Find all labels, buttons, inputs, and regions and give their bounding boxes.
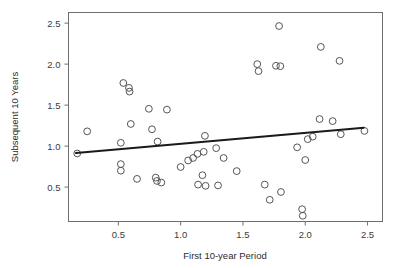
- data-point: [261, 181, 268, 188]
- x-tick-label: 1.5: [236, 229, 249, 240]
- y-axis-ticks: [65, 23, 69, 187]
- data-point: [158, 179, 165, 186]
- data-point: [302, 157, 309, 164]
- data-point: [195, 181, 202, 188]
- data-point: [316, 116, 323, 123]
- data-point: [117, 167, 124, 174]
- x-tick-label: 2.5: [361, 229, 374, 240]
- data-point: [134, 175, 141, 182]
- data-point: [120, 80, 127, 87]
- data-point: [255, 68, 262, 75]
- data-point: [145, 105, 152, 112]
- data-point: [266, 196, 273, 203]
- data-point: [213, 145, 220, 152]
- y-tick-label: 1.0: [47, 141, 60, 152]
- data-point: [177, 164, 184, 171]
- data-point: [337, 131, 344, 138]
- data-point: [299, 206, 306, 213]
- data-point: [154, 138, 161, 145]
- x-tick-label: 2.0: [299, 229, 312, 240]
- data-point: [84, 128, 91, 135]
- data-point: [202, 182, 209, 189]
- x-tick-label: 1.0: [174, 229, 187, 240]
- y-axis-tick-labels: 0.51.01.52.02.5: [47, 18, 60, 193]
- data-point: [254, 61, 261, 68]
- data-point: [200, 148, 207, 155]
- data-point: [276, 23, 283, 30]
- data-point: [336, 57, 343, 64]
- data-point: [233, 168, 240, 175]
- data-point: [278, 189, 285, 196]
- data-point: [149, 126, 156, 133]
- y-tick-label: 1.5: [47, 100, 60, 111]
- plot-frame: [69, 13, 383, 222]
- data-point: [127, 121, 134, 128]
- data-point: [215, 182, 222, 189]
- plot-border: [69, 13, 383, 222]
- data-point: [164, 106, 171, 113]
- data-point: [329, 118, 336, 125]
- data-point: [117, 161, 124, 168]
- data-point-group: [74, 23, 368, 220]
- data-point: [294, 144, 301, 151]
- y-axis-title: Subsequent 10 Years: [9, 72, 20, 163]
- plot-canvas: 0.51.01.52.02.5 0.51.01.52.02.5 First 10…: [0, 0, 403, 268]
- data-point: [199, 172, 206, 179]
- data-point: [277, 63, 284, 70]
- x-axis-ticks: [118, 222, 367, 226]
- data-point: [220, 155, 227, 162]
- data-point: [202, 132, 209, 139]
- y-tick-label: 0.5: [47, 182, 60, 193]
- scatter-plot-figure: 0.51.01.52.02.5 0.51.01.52.02.5 First 10…: [0, 0, 403, 268]
- x-axis-tick-labels: 0.51.01.52.02.5: [112, 229, 374, 240]
- y-tick-label: 2.5: [47, 18, 60, 29]
- y-tick-label: 2.0: [47, 59, 60, 70]
- x-axis-title: First 10-year Period: [183, 250, 266, 261]
- data-point: [299, 212, 306, 219]
- x-tick-label: 0.5: [112, 229, 125, 240]
- data-point: [317, 44, 324, 51]
- data-point: [117, 139, 124, 146]
